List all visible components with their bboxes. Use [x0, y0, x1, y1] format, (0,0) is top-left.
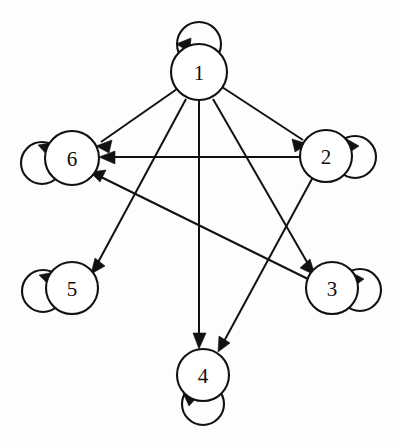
node-3[interactable]: 3 [306, 262, 358, 314]
node-label-5: 5 [67, 277, 78, 301]
edge-line-1-3 [213, 99, 311, 269]
edge-line-2-4 [222, 177, 313, 345]
arrowhead-2-4 [218, 336, 230, 352]
arrowhead-1-4 [193, 333, 206, 349]
node-2[interactable]: 2 [300, 130, 352, 182]
arrowhead-2-6 [99, 151, 115, 164]
node-label-6: 6 [67, 147, 78, 171]
edge-line-3-6 [97, 175, 308, 279]
node-4[interactable]: 4 [177, 349, 229, 401]
node-label-3: 3 [327, 277, 338, 301]
edge-layer [90, 87, 315, 352]
node-label-4: 4 [198, 364, 209, 388]
edge-line-1-6 [101, 89, 177, 142]
node-label-2: 2 [321, 145, 332, 169]
edge-2-to-4 [218, 177, 313, 352]
edge-line-1-2 [222, 87, 303, 140]
edge-line-1-5 [95, 99, 186, 268]
node-1[interactable]: 1 [171, 44, 227, 100]
graph-canvas: 1 2 3 4 5 6 [0, 0, 399, 441]
node-layer: 1 2 3 4 5 6 [45, 44, 358, 401]
edge-1-to-5 [91, 99, 186, 274]
node-6[interactable]: 6 [45, 131, 99, 185]
edge-1-to-3 [213, 99, 315, 275]
directed-graph-figure: 1 2 3 4 5 6 [0, 0, 399, 441]
edge-1-to-2 [222, 87, 308, 152]
node-label-1: 1 [194, 61, 205, 85]
node-5[interactable]: 5 [46, 262, 98, 314]
edge-1-to-6 [96, 89, 177, 153]
